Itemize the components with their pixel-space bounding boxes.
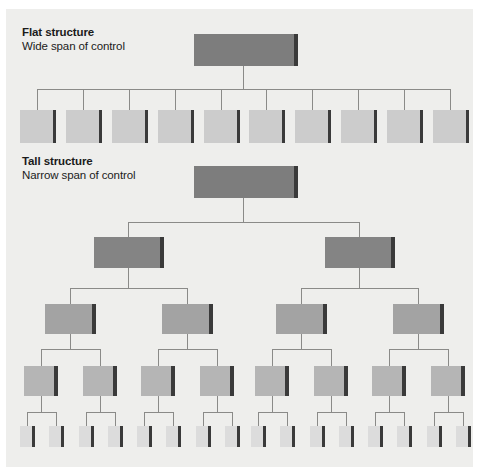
tall-level5-node bbox=[339, 426, 354, 447]
tall-level5-node bbox=[20, 426, 35, 447]
diagram-page: Flat structure Wide span of control bbox=[6, 9, 473, 467]
flat-leaf-node-face bbox=[20, 110, 56, 143]
tall-l5-bus bbox=[434, 412, 463, 413]
tall-level5-node-shadow bbox=[91, 426, 94, 447]
flat-leaf-node bbox=[158, 110, 194, 143]
tall-l4-bus bbox=[158, 349, 217, 350]
tall-level4-node bbox=[314, 366, 348, 396]
flat-leaf-node-face bbox=[112, 110, 148, 143]
tall-l5-drop-line bbox=[144, 412, 145, 426]
flat-drop-line bbox=[129, 89, 130, 110]
tall-l5-drop-line bbox=[56, 412, 57, 426]
tall-level5-node-shadow bbox=[208, 426, 211, 447]
tall-level4-node-shadow bbox=[113, 366, 117, 396]
tall-level5-node bbox=[397, 426, 412, 447]
tall-level5-node bbox=[225, 426, 240, 447]
flat-leaf-node bbox=[341, 110, 377, 143]
tall-l5-drop-line bbox=[463, 412, 464, 426]
tall-l5-drop-line bbox=[434, 412, 435, 426]
tall-level2-node bbox=[325, 237, 395, 268]
tall-l4-drop-line bbox=[100, 349, 101, 366]
flat-leaf-node bbox=[20, 110, 56, 143]
tall-level4-node-face bbox=[255, 366, 289, 396]
flat-leaf-node-shadow bbox=[53, 110, 56, 143]
tall-level3-node bbox=[45, 304, 96, 334]
tall-level2-node-shadow bbox=[160, 237, 164, 268]
tall-level5-node-shadow bbox=[439, 426, 442, 447]
flat-root-stem bbox=[243, 66, 244, 89]
tall-l2-stem bbox=[128, 268, 129, 288]
tall-l4-drop-line bbox=[272, 349, 273, 366]
tall-l4-drop-line bbox=[331, 349, 332, 366]
flat-drop-line bbox=[221, 89, 222, 110]
tall-level4-node bbox=[372, 366, 406, 396]
tall-l3-drop-line bbox=[418, 288, 419, 304]
tall-level4-node-shadow bbox=[344, 366, 348, 396]
tall-level5-node bbox=[368, 426, 383, 447]
tall-l3-stem bbox=[301, 334, 302, 349]
tall-l5-bus bbox=[258, 412, 287, 413]
tall-level3-node-shadow bbox=[92, 304, 96, 334]
tall-l4-stem bbox=[217, 396, 218, 412]
tall-level5-node-shadow bbox=[380, 426, 383, 447]
flat-leaf-node bbox=[112, 110, 148, 143]
tall-l4-stem bbox=[331, 396, 332, 412]
tall-level5-node bbox=[166, 426, 181, 447]
flat-leaf-node-shadow bbox=[466, 110, 469, 143]
tall-l3-stem bbox=[70, 334, 71, 349]
flat-leaf-node bbox=[66, 110, 102, 143]
tall-level2-node-face bbox=[325, 237, 395, 268]
tall-l3-drop-line bbox=[70, 288, 71, 304]
tall-level4-node-face bbox=[200, 366, 234, 396]
tall-l2-drop-line bbox=[359, 222, 360, 237]
tall-level5-node-shadow bbox=[322, 426, 325, 447]
tall-l5-drop-line bbox=[27, 412, 28, 426]
tall-level5-node-shadow bbox=[351, 426, 354, 447]
tall-level5-node-shadow bbox=[178, 426, 181, 447]
tall-l4-stem bbox=[41, 396, 42, 412]
tall-level3-node-shadow bbox=[323, 304, 327, 334]
tall-l5-drop-line bbox=[115, 412, 116, 426]
tall-level2-node-shadow bbox=[391, 237, 395, 268]
tall-level4-node bbox=[200, 366, 234, 396]
tall-level5-node bbox=[456, 426, 471, 447]
tall-l4-drop-line bbox=[217, 349, 218, 366]
tall-level4-node-shadow bbox=[171, 366, 175, 396]
flat-leaf-node-face bbox=[341, 110, 377, 143]
tall-l3-stem bbox=[187, 334, 188, 349]
tall-l3-bus bbox=[70, 288, 187, 289]
tall-level5-node bbox=[137, 426, 152, 447]
flat-leaf-node bbox=[295, 110, 331, 143]
tall-l5-drop-line bbox=[346, 412, 347, 426]
tall-l4-drop-line bbox=[448, 349, 449, 366]
tall-l5-bus bbox=[375, 412, 404, 413]
tall-l3-drop-line bbox=[187, 288, 188, 304]
flat-drop-line bbox=[175, 89, 176, 110]
flat-structure-title: Flat structure bbox=[22, 26, 125, 39]
tall-l3-drop-line bbox=[301, 288, 302, 304]
flat-leaf-node-face bbox=[249, 110, 285, 143]
flat-leaf-node-face bbox=[295, 110, 331, 143]
flat-leaf-node-shadow bbox=[145, 110, 148, 143]
tall-root-node-shadow bbox=[294, 166, 298, 198]
tall-level4-node-shadow bbox=[230, 366, 234, 396]
tall-l4-stem bbox=[100, 396, 101, 412]
tall-l4-stem bbox=[448, 396, 449, 412]
tall-l4-bus bbox=[389, 349, 448, 350]
tall-level5-node bbox=[49, 426, 64, 447]
tall-level5-node bbox=[427, 426, 442, 447]
flat-connector-bus bbox=[37, 89, 450, 90]
tall-l4-stem bbox=[272, 396, 273, 412]
tall-level3-node-face bbox=[45, 304, 96, 334]
tall-l5-drop-line bbox=[287, 412, 288, 426]
tall-level5-node bbox=[280, 426, 295, 447]
tall-l5-drop-line bbox=[86, 412, 87, 426]
tall-level4-node-shadow bbox=[54, 366, 58, 396]
flat-leaf-node bbox=[204, 110, 240, 143]
flat-leaf-node-face bbox=[66, 110, 102, 143]
tall-level4-node bbox=[24, 366, 58, 396]
tall-level4-node-face bbox=[431, 366, 465, 396]
tall-l5-drop-line bbox=[404, 412, 405, 426]
tall-l5-drop-line bbox=[173, 412, 174, 426]
tall-l5-drop-line bbox=[258, 412, 259, 426]
